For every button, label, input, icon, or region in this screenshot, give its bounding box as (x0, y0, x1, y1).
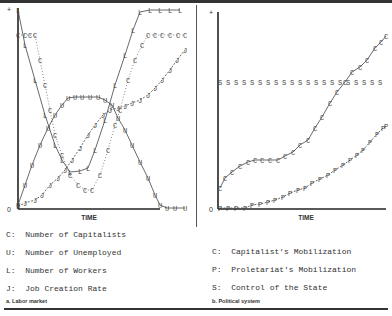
legend-key: U: (6, 248, 16, 257)
series-marker-p: P (333, 167, 337, 175)
series-marker-j: J (63, 167, 67, 175)
legend-text: Proletariat's Mobilization (231, 265, 356, 274)
series-marker-c: C (76, 182, 80, 190)
legend-text: Number of Unemployed (25, 248, 121, 257)
series-marker-j: J (40, 192, 44, 200)
series-marker-c: C (133, 57, 137, 65)
series-marker-c: C (230, 169, 234, 177)
right-caption: b. Political system (212, 298, 260, 304)
legend-item-capitalist-mobilization: C: Capitalist's Mobilization (212, 247, 351, 256)
series-marker-c: C (98, 172, 102, 180)
series-marker-c: C (48, 107, 52, 115)
series-marker-c: C (365, 57, 369, 65)
series-marker-s: S (362, 79, 366, 87)
series-marker-l: L (113, 82, 117, 90)
legend-text: Number of Workers (25, 266, 107, 275)
legend-key: L: (6, 266, 16, 275)
series-marker-p: P (250, 202, 254, 210)
series-marker-s: S (218, 79, 222, 87)
series-marker-p: P (218, 205, 222, 213)
series-marker-u: U (173, 205, 177, 213)
series-marker-u: U (46, 125, 50, 133)
left-caption: a. Labor market (6, 298, 47, 304)
series-marker-p: P (318, 176, 322, 184)
series-marker-c: C (291, 149, 295, 157)
series-marker-p: P (384, 123, 388, 131)
series-marker-s: S (298, 79, 302, 87)
series-marker-p: P (368, 139, 372, 147)
series-marker-p: P (296, 187, 300, 195)
series-marker-c: C (335, 89, 339, 97)
series-marker-u: U (73, 94, 77, 102)
series-marker-j: J (16, 203, 20, 211)
series-marker-s: S (234, 79, 238, 87)
series-marker-u: U (116, 115, 120, 123)
series-marker-p: P (348, 157, 352, 165)
series-marker-c: C (23, 32, 27, 40)
series-marker-s: S (250, 79, 254, 87)
series-marker-p: P (243, 205, 247, 213)
series-marker-p: P (281, 194, 285, 202)
series-marker-l: L (168, 7, 172, 15)
series-marker-c: C (223, 175, 227, 183)
series-marker-j: J (78, 145, 82, 153)
series-marker-p: P (341, 162, 345, 170)
right-x-label: TIME (298, 214, 314, 221)
series-marker-j: J (48, 182, 52, 190)
series-marker-j: J (130, 100, 134, 108)
series-marker-l: L (78, 168, 82, 176)
series-marker-c: C (33, 32, 37, 40)
bottom-rule (4, 308, 388, 310)
series-marker-c: C (90, 187, 94, 195)
series-marker-s: S (322, 79, 326, 87)
series-marker-c: C (28, 32, 32, 40)
series-marker-p: P (258, 201, 262, 209)
series-marker-c: C (313, 125, 317, 133)
series-marker-l: L (178, 7, 182, 15)
legend-item-job-creation: J: Job Creation Rate (6, 284, 107, 293)
series-marker-u: U (158, 202, 162, 210)
legend-key: J: (6, 284, 16, 293)
series-marker-c: C (126, 77, 130, 85)
legend-item-capitalists: C: Number of Capitalists (6, 230, 126, 239)
series-marker-c: C (160, 32, 164, 40)
series-marker-l: L (43, 112, 47, 120)
series-marker-l: L (23, 42, 27, 50)
series-marker-s: S (242, 79, 246, 87)
legend-text: Number of Capitalists (25, 230, 126, 239)
series-marker-p: P (375, 131, 379, 139)
series-marker-c: C (379, 39, 383, 47)
series-marker-j: J (138, 97, 142, 105)
series-marker-u: U (38, 142, 42, 150)
series-marker-j: J (86, 132, 90, 140)
series-marker-c: C (218, 185, 222, 193)
series-marker-l: L (138, 9, 142, 17)
series-marker-u: U (30, 162, 34, 170)
legend-text: Capitalist's Mobilization (231, 247, 351, 256)
right-axis-plus: + (209, 9, 213, 16)
series-marker-c: C (140, 42, 144, 50)
series-marker-u: U (183, 205, 187, 213)
series-marker-j: J (23, 200, 27, 208)
legend-key: C: (6, 230, 16, 239)
series-marker-s: S (226, 79, 230, 87)
series-marker-c: C (83, 187, 87, 195)
series-marker-u: U (23, 182, 27, 190)
series-marker-s: S (346, 79, 350, 87)
series-marker-s: S (290, 79, 294, 87)
series-marker-c: C (253, 157, 257, 165)
series-marker-c: C (183, 32, 187, 40)
series-marker-p: P (355, 152, 359, 160)
series-marker-c: C (358, 64, 362, 72)
left-series-group: LLLLLLLLLLLLLLLLLLLCCCCCCCCCCCCCCCCCCCCC… (16, 7, 187, 213)
series-marker-c: C (38, 57, 42, 65)
series-marker-s: S (338, 79, 342, 87)
series-marker-s: S (370, 79, 374, 87)
series-marker-j: J (108, 107, 112, 115)
series-marker-j: J (175, 57, 179, 65)
series-marker-u: U (103, 97, 107, 105)
series-marker-u: U (80, 94, 84, 102)
series-marker-c: C (106, 147, 110, 155)
series-marker-u: U (153, 192, 157, 200)
series-marker-j: J (93, 122, 97, 130)
